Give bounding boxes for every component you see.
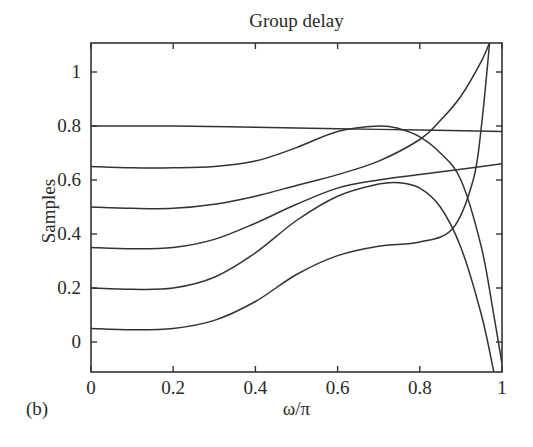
series-line-curve-0.05 (91, 42, 490, 330)
axis-ticks: 00.20.40.60.8100.20.40.60.81 (57, 43, 507, 398)
x-tick-label: 1 (497, 377, 507, 398)
series-line-curve-0.8 (91, 126, 502, 131)
series-line-curve-0.65 (91, 126, 502, 364)
x-tick-label: 0.6 (326, 377, 350, 398)
x-tick-label: 0.8 (408, 377, 432, 398)
plot-area: 00.20.40.60.8100.20.40.60.81 (0, 0, 533, 447)
y-tick-label: 0.6 (57, 169, 81, 190)
y-tick-label: 0.8 (57, 115, 81, 136)
y-tick-label: 1 (72, 61, 82, 82)
y-tick-label: 0 (72, 331, 82, 352)
data-lines (91, 42, 502, 371)
y-tick-label: 0.2 (57, 277, 81, 298)
x-tick-label: 0 (86, 377, 96, 398)
x-tick-label: 0.2 (161, 377, 185, 398)
x-tick-label: 0.4 (244, 377, 268, 398)
y-tick-label: 0.4 (57, 223, 81, 244)
